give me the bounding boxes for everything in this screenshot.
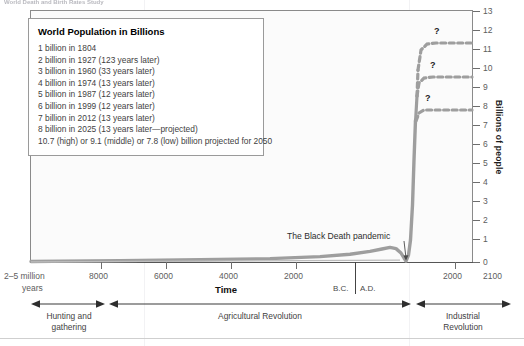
y-tick-label-2: 2 — [483, 216, 488, 224]
y-tick-label-13: 13 — [483, 7, 492, 15]
x-tick-label-4000: 4000 — [219, 271, 238, 281]
legend-line-6: 6 billion in 1999 (12 years later) — [38, 101, 254, 113]
y-tick-7 — [473, 125, 480, 126]
legend-line-5: 5 billion in 1987 (12 years later) — [38, 89, 254, 101]
legend-line-4: 4 billion in 1974 (13 years later) — [38, 78, 254, 90]
legend-line-1: 1 billion in 1804 — [38, 43, 254, 55]
y-tick-4 — [473, 182, 480, 183]
y-tick-label-4: 4 — [483, 178, 488, 186]
x-origin-label-line1: 2–5 million — [4, 271, 45, 281]
y-tick-1 — [473, 239, 480, 240]
y-tick-label-3: 3 — [483, 197, 488, 205]
black-death-annotation: The Black Death pandemic — [287, 231, 390, 241]
x-tick-label-6000: 6000 — [154, 271, 173, 281]
x-origin-label-line2: years — [22, 283, 43, 293]
y-tick-label-5: 5 — [483, 159, 488, 167]
legend-line-8: 8 billion in 2025 (13 years later—projec… — [38, 124, 254, 136]
x-tick-8000 — [101, 262, 102, 269]
era-arrow-indus-left — [416, 300, 425, 308]
legend-line-2: 2 billion in 1927 (123 years later) — [38, 55, 254, 67]
era-label-industrial-line1: Industrial — [446, 311, 480, 321]
era-label-agricultural: Agricultural Revolution — [180, 311, 340, 322]
x-axis-line — [30, 262, 474, 263]
population-milestones-box: World Population in Billions 1 billion i… — [28, 18, 264, 156]
x-tick-label-2100ad: 2100 — [483, 271, 502, 281]
bc-label: B.C. — [333, 284, 349, 293]
era-label-agricultural-line1: Agricultural Revolution — [218, 311, 302, 321]
y-tick-12 — [473, 30, 480, 31]
era-label-industrial-line2: Revolution — [443, 322, 483, 332]
y-tick-10 — [473, 68, 480, 69]
y-tick-8 — [473, 106, 480, 107]
legend-line-9: 10.7 (high) or 9.1 (middle) or 7.8 (low)… — [38, 136, 254, 148]
x-tick-6000 — [166, 262, 167, 269]
era-label-hunting-line1: Hunting and — [46, 311, 91, 321]
y-tick-11 — [473, 49, 480, 50]
bc-ad-divider — [355, 262, 356, 294]
x-tick-4000 — [231, 262, 232, 269]
y-tick-label-11: 11 — [483, 45, 492, 53]
question-mark-high: ? — [434, 26, 440, 36]
legend-line-7: 7 billion in 2012 (13 years later) — [38, 113, 254, 125]
y-tick-label-1: 1 — [483, 235, 488, 243]
y-tick-2 — [473, 220, 480, 221]
population-growth-figure: World Death and Birth Rates Study ? ? ? … — [0, 0, 524, 346]
figure-caption-cropped: World Death and Birth Rates Study — [4, 0, 194, 7]
y-tick-5 — [473, 163, 480, 164]
bottom-rule — [0, 338, 524, 339]
y-tick-label-9: 9 — [483, 83, 488, 91]
era-label-hunting-line2: gathering — [52, 322, 87, 332]
y-tick-label-6: 6 — [483, 140, 488, 148]
x-axis-title: Time — [215, 284, 237, 295]
era-arrow-agri-left — [109, 300, 118, 308]
era-arrow-hunting-right — [96, 300, 105, 308]
question-mark-low: ? — [425, 93, 431, 103]
x-tick-2000bc — [296, 262, 297, 269]
y-tick-label-10: 10 — [483, 64, 492, 72]
era-arrow-indus-right — [502, 300, 511, 308]
y-tick-label-7: 7 — [483, 121, 488, 129]
question-mark-middle: ? — [430, 60, 436, 70]
x-tick-label-8000: 8000 — [89, 271, 108, 281]
y-tick-label-12: 12 — [483, 26, 492, 34]
x-tick-label-2000ad: 2000 — [443, 271, 462, 281]
x-tick-label-2000bc: 2000 — [284, 271, 303, 281]
era-label-hunting: Hunting and gathering — [28, 311, 110, 333]
y-tick-9 — [473, 87, 480, 88]
y-tick-6 — [473, 144, 480, 145]
era-label-industrial: Industrial Revolution — [421, 311, 505, 333]
y-tick-13 — [473, 11, 480, 12]
legend-line-3: 3 billion in 1960 (33 years later) — [38, 66, 254, 78]
era-arrow-hunting-left — [31, 300, 40, 308]
y-tick-3 — [473, 201, 480, 202]
x-tick-2000ad — [455, 262, 456, 269]
y-tick-label-8: 8 — [483, 102, 488, 110]
y-tick-0 — [473, 262, 480, 263]
legend-title: World Population in Billions — [38, 26, 254, 37]
y-axis-title: Billions of people — [494, 100, 504, 174]
ad-label: A.D. — [360, 284, 376, 293]
figure-caption-text: World Death and Birth Rates Study — [4, 0, 194, 6]
y-tick-label-0: 0 — [483, 258, 488, 266]
